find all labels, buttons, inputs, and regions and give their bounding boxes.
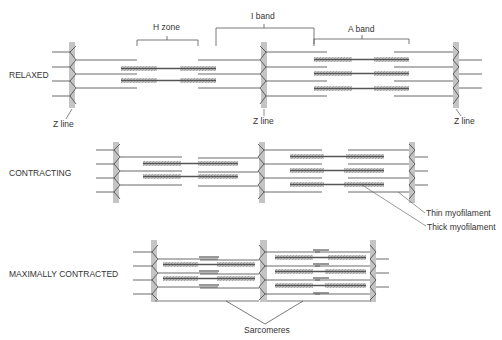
contracting-state: CONTRACTING [9,142,496,232]
state-label-maximally-contracted: MAXIMALLY CONTRACTED [9,269,118,279]
h-zone-bracket [137,36,198,46]
z-line-pointer-3 [456,109,461,116]
z-line-pointer-1 [66,109,72,119]
z-line-relaxed-1 [52,42,137,108]
thick-myofilament-label: Thick myofilament [427,222,496,232]
thick-filaments-contracting-left [143,161,238,179]
a-band-bracket [314,35,409,44]
z-line-relaxed-2 [198,42,327,108]
thick-myofilament-pointer [362,185,426,226]
i-band-label: I band [251,11,275,21]
a-band-label: A band [348,24,375,34]
thick-filaments-relaxed-left [121,66,216,83]
h-zone-label: H zone [153,22,180,32]
thick-filaments-max-right [275,255,366,288]
z-line-label-3: Z line [454,116,475,126]
z-line-contracting-1 [96,142,182,203]
state-label-relaxed: RELAXED [9,70,49,80]
maximally-contracted-state: MAXIMALLY CONTRACTED [9,240,389,335]
thick-filaments-relaxed-right [314,57,409,91]
thick-filaments-contracting-right [290,154,384,187]
sarcomere-brackets [155,301,371,324]
thin-myofilament-label: Thin myofilament [426,208,491,218]
state-label-contracting: CONTRACTING [9,168,71,178]
sarcomere-diagram: RELAXED H zone I band A band [0,0,502,340]
z-line-label-1: Z line [53,119,74,129]
relaxed-state: RELAXED H zone I band A band [9,11,482,129]
z-line-label-2: Z line [253,116,274,126]
sarcomeres-label: Sarcomeres [244,325,290,335]
